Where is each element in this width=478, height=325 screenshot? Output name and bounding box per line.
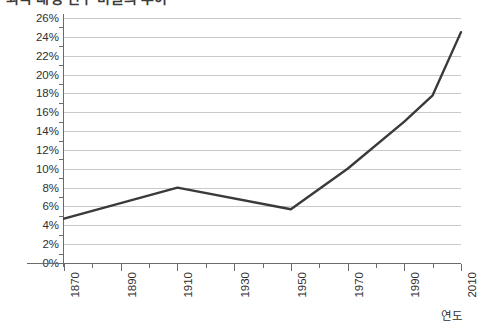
x-axis-major-tick xyxy=(64,264,65,271)
x-axis-tick-labels: 18701890191019301950197019902010 xyxy=(64,272,461,316)
x-axis-major-tick xyxy=(348,264,349,271)
x-axis-title: 연도 xyxy=(441,307,463,323)
x-axis-major-tick xyxy=(177,264,178,271)
x-axis-minor-tick xyxy=(319,264,320,268)
plot-area xyxy=(64,18,461,263)
x-axis-major-tick xyxy=(234,264,235,271)
series-line-foreign-born xyxy=(64,18,461,263)
x-axis-minor-tick xyxy=(206,264,207,268)
x-axis-tick-label: 1870 xyxy=(69,272,81,298)
x-axis-major-tick xyxy=(291,264,292,271)
x-axis-minor-tick xyxy=(92,264,93,268)
x-axis-tick-label: 1910 xyxy=(182,272,194,298)
x-axis-tick-label: 1950 xyxy=(296,272,308,298)
x-axis-tick-label: 2010 xyxy=(466,272,478,298)
x-axis-ticks xyxy=(64,264,461,272)
x-axis-tick-label: 1890 xyxy=(126,272,138,298)
chart-title: 외국 태생 인구 비율의 추이 xyxy=(6,0,168,7)
x-axis-major-tick xyxy=(404,264,405,271)
x-axis-tick-label: 1930 xyxy=(239,272,251,298)
x-axis-major-tick xyxy=(461,264,462,271)
x-axis-tick-label: 1970 xyxy=(353,272,365,298)
x-axis-minor-tick xyxy=(433,264,434,268)
x-axis-major-tick xyxy=(121,264,122,271)
data-line xyxy=(64,32,461,219)
x-axis-minor-tick xyxy=(149,264,150,268)
x-axis-minor-tick xyxy=(376,264,377,268)
y-axis-ticks xyxy=(0,18,64,263)
x-axis-minor-tick xyxy=(263,264,264,268)
x-axis-tick-label: 1990 xyxy=(409,272,421,298)
